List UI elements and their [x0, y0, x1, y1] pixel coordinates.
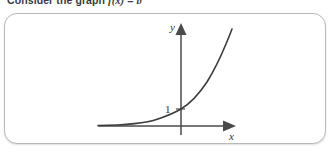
y-intercept-label: 1	[165, 103, 171, 115]
caption-equals: =	[124, 0, 136, 6]
caption-strip: Consider the graph f(x) = bx	[0, 0, 332, 11]
figure-panel: y x 1	[4, 13, 326, 144]
caption-prefix: Consider the graph	[7, 0, 108, 6]
caption-function: f(x)	[108, 0, 124, 6]
figure-caption: Consider the graph f(x) = bx	[7, 0, 145, 6]
y-axis-arrowhead	[176, 23, 187, 35]
y-axis-label: y	[169, 21, 175, 33]
caption-exponent: x	[142, 0, 146, 1]
x-axis-label: x	[228, 130, 234, 142]
exponential-graph: y x 1	[5, 14, 327, 145]
